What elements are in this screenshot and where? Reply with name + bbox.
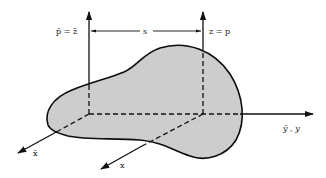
y-axis-label: ȳ , y	[282, 124, 300, 133]
offset-distance-label: s	[143, 27, 147, 36]
parallel-axis-diagram: p̄ = z̄ z = p s ȳ , y x̄ x	[0, 0, 326, 178]
z-axis-label: z = p	[209, 27, 230, 36]
x-bar-axis-label: x̄	[33, 149, 38, 158]
x-axis-label: x	[120, 161, 125, 170]
cross-section-region	[47, 45, 242, 158]
z-bar-axis-label: p̄ = z̄	[56, 27, 77, 36]
x-bar-axis	[18, 130, 60, 153]
